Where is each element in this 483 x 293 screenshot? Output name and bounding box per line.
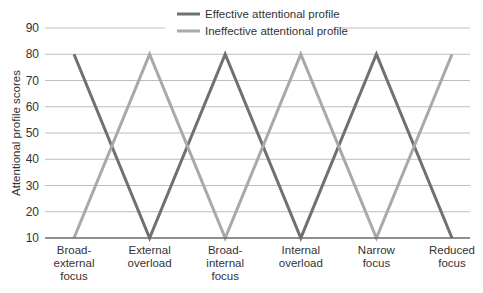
y-tick-label: 20 [26,205,40,219]
y-axis-label: Attentional profile scores [10,70,22,196]
x-category-label: Broad-externalfocus [54,244,95,282]
x-category-label: Reducedfocus [429,244,475,269]
x-category-label: Internaloverload [279,244,323,269]
x-category-label: Narrowfocus [358,244,396,269]
line-chart: 102030405060708090 Attentional profile s… [0,0,483,293]
y-axis-ticks: 102030405060708090 [26,21,40,245]
legend: Effective attentional profileIneffective… [177,8,348,37]
legend-label-effective: Effective attentional profile [205,8,340,20]
series-line-ineffective [74,54,452,238]
y-tick-label: 40 [26,152,40,166]
x-category-label: Broad-internalfocus [206,244,244,282]
y-tick-label: 50 [26,126,40,140]
legend-label-ineffective: Ineffective attentional profile [205,25,348,37]
series-lines [74,54,452,238]
y-tick-label: 10 [26,231,40,245]
y-tick-label: 30 [26,179,40,193]
gridlines [45,28,470,212]
y-tick-label: 70 [26,74,40,88]
y-tick-label: 60 [26,100,40,114]
x-axis-categories: Broad-externalfocusExternaloverloadBroad… [54,244,475,282]
y-tick-label: 80 [26,47,40,61]
y-tick-label: 90 [26,21,40,35]
x-category-label: Externaloverload [128,244,172,269]
